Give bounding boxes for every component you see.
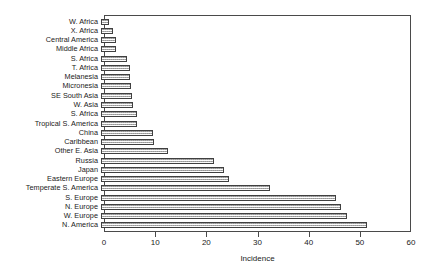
bar-track bbox=[101, 184, 411, 193]
bar-category-label: T. Africa bbox=[0, 64, 101, 72]
bar-row: Japan bbox=[0, 165, 411, 174]
bar-category-label: S. Africa bbox=[0, 110, 101, 118]
x-tick-label: 20 bbox=[202, 238, 211, 248]
bar-row: Central America bbox=[0, 35, 411, 44]
bar-category-label: W. Europe bbox=[0, 212, 101, 220]
bar-track bbox=[101, 82, 411, 91]
bar bbox=[101, 139, 154, 145]
bar-row: Russia bbox=[0, 156, 411, 165]
bar-track bbox=[101, 212, 411, 221]
bar-track bbox=[101, 26, 411, 35]
bar-track bbox=[101, 91, 411, 100]
bar-track bbox=[101, 17, 411, 26]
bar-track bbox=[101, 156, 411, 165]
x-tick-mark bbox=[360, 232, 361, 237]
bar-track bbox=[101, 110, 411, 119]
bar-track bbox=[101, 100, 411, 109]
bar-row: Tropical S. America bbox=[0, 119, 411, 128]
bar-row: N. America bbox=[0, 221, 411, 230]
bar-row: N. Europe bbox=[0, 202, 411, 211]
bar-track bbox=[101, 221, 411, 230]
bar-track bbox=[101, 54, 411, 63]
bar-category-label: Eastern Europe bbox=[0, 175, 101, 183]
bar-category-label: Central America bbox=[0, 36, 101, 44]
bar-category-label: Melanesia bbox=[0, 73, 101, 81]
bar-row: SE South Asia bbox=[0, 91, 411, 100]
bar-row: Middle Africa bbox=[0, 45, 411, 54]
bar-category-label: S. Africa bbox=[0, 55, 101, 63]
bar-row: T. Africa bbox=[0, 63, 411, 72]
bar-row: W. Europe bbox=[0, 212, 411, 221]
bar-category-label: N. America bbox=[0, 221, 101, 229]
bar-category-label: S. Europe bbox=[0, 194, 101, 202]
bar bbox=[101, 195, 336, 201]
bar-track bbox=[101, 35, 411, 44]
bar-row: S. Europe bbox=[0, 193, 411, 202]
x-tick-label: 50 bbox=[355, 238, 364, 248]
bar-category-label: W. Africa bbox=[0, 18, 101, 26]
bar-track bbox=[101, 202, 411, 211]
bar bbox=[101, 148, 168, 154]
bar-category-label: Other E. Asia bbox=[0, 147, 101, 155]
bar-category-label: Temperate S. America bbox=[0, 184, 101, 192]
x-tick-label: 30 bbox=[253, 238, 262, 248]
x-tick-mark bbox=[309, 232, 310, 237]
x-tick-mark bbox=[258, 232, 259, 237]
bar bbox=[101, 46, 116, 52]
bar-row: Micronesia bbox=[0, 82, 411, 91]
bar bbox=[101, 102, 133, 108]
bar bbox=[101, 28, 113, 34]
bar-category-label: SE South Asia bbox=[0, 92, 101, 100]
bar-category-label: N. Europe bbox=[0, 203, 101, 211]
bar-category-label: Russia bbox=[0, 157, 101, 165]
bar-track bbox=[101, 119, 411, 128]
bar-category-label: X. Africa bbox=[0, 27, 101, 35]
bar-track bbox=[101, 193, 411, 202]
bar bbox=[101, 111, 137, 117]
bar-category-label: Japan bbox=[0, 166, 101, 174]
bar bbox=[101, 204, 341, 210]
bar bbox=[101, 74, 130, 80]
bar-track bbox=[101, 174, 411, 183]
bar-category-label: Caribbean bbox=[0, 138, 101, 146]
bar-track bbox=[101, 147, 411, 156]
bar bbox=[101, 213, 347, 219]
bar bbox=[101, 83, 131, 89]
bar-track bbox=[101, 73, 411, 82]
x-tick-mark bbox=[206, 232, 207, 237]
bar bbox=[101, 37, 116, 43]
bar-row: W. Asia bbox=[0, 100, 411, 109]
bar-row: Melanesia bbox=[0, 73, 411, 82]
bar bbox=[101, 93, 132, 99]
bar-row: W. Africa bbox=[0, 17, 411, 26]
x-tick-label: 10 bbox=[151, 238, 160, 248]
bar-category-label: W. Asia bbox=[0, 101, 101, 109]
x-tick-label: 40 bbox=[304, 238, 313, 248]
bar-track bbox=[101, 165, 411, 174]
bar bbox=[101, 65, 130, 71]
x-tick-mark bbox=[155, 232, 156, 237]
bar bbox=[101, 167, 224, 173]
bar-track bbox=[101, 128, 411, 137]
bar-row: China bbox=[0, 128, 411, 137]
bar-track bbox=[101, 137, 411, 146]
bar-track bbox=[101, 45, 411, 54]
bar bbox=[101, 130, 153, 136]
bar bbox=[101, 176, 229, 182]
bar-category-label: Tropical S. America bbox=[0, 120, 101, 128]
x-tick-label: 60 bbox=[407, 238, 416, 248]
bar-track bbox=[101, 63, 411, 72]
bar bbox=[101, 56, 127, 62]
bar-row: Eastern Europe bbox=[0, 174, 411, 183]
bar bbox=[101, 19, 109, 25]
bar-row: X. Africa bbox=[0, 26, 411, 35]
bar bbox=[101, 158, 214, 164]
bar-row: Caribbean bbox=[0, 137, 411, 146]
x-axis-title: Incidence bbox=[104, 254, 411, 264]
bar-row: Other E. Asia bbox=[0, 147, 411, 156]
bar-category-label: Middle Africa bbox=[0, 45, 101, 53]
bar-row: S. Africa bbox=[0, 110, 411, 119]
x-tick-label: 0 bbox=[102, 238, 106, 248]
bar-row: Temperate S. America bbox=[0, 184, 411, 193]
bar-rows: W. AfricaX. AfricaCentral AmericaMiddle … bbox=[0, 15, 411, 232]
